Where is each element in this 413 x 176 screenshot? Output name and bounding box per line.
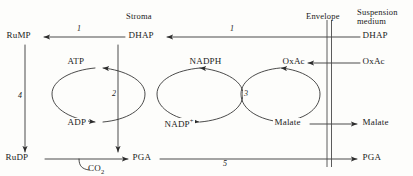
node-rudp: RuDP: [4, 153, 30, 162]
curve-nadph-to-nadp-left: [157, 68, 200, 122]
reaction-number-3: 3: [243, 90, 249, 98]
reaction-number-1-left: 1: [76, 25, 82, 33]
node-oxac-stroma: OxAc: [281, 57, 306, 66]
header-stroma: Stroma: [126, 12, 152, 21]
node-nadp-charge: +: [190, 117, 194, 124]
envelope-membrane: [327, 20, 332, 167]
node-dhap-stroma: DHAP: [127, 31, 155, 40]
node-malate-medium: Malate: [361, 118, 390, 127]
curve-nadp-to-nadph-right: [200, 68, 243, 122]
node-atp: ATP: [66, 57, 86, 66]
node-co2: CO2: [88, 164, 104, 176]
node-nadp: NADP+: [163, 118, 195, 129]
node-dhap-medium: DHAP: [361, 31, 389, 40]
curve-malate-to-oxac-right: [281, 68, 320, 122]
reaction-number-5: 5: [222, 160, 228, 168]
node-rump: RuMP: [5, 31, 32, 40]
node-nadph: NADPH: [188, 57, 223, 66]
reaction-number-1-right: 1: [229, 25, 235, 33]
curve-atp-to-adp-left: [52, 68, 95, 122]
header-suspension-medium-line2: medium: [357, 17, 386, 26]
node-pga-medium: PGA: [361, 153, 383, 162]
curve-adp-to-atp-right: [103, 68, 145, 122]
node-oxac-medium: OxAc: [361, 57, 386, 66]
reaction-number-4: 4: [17, 92, 23, 100]
node-pga-stroma: PGA: [131, 153, 153, 162]
node-co2-subscript: 2: [101, 168, 104, 175]
node-malate-stroma: Malate: [273, 118, 302, 127]
diagram-canvas: [0, 0, 413, 176]
reaction-number-2: 2: [111, 90, 117, 98]
header-envelope: Envelope: [306, 12, 340, 21]
node-nadp-text: NADP: [165, 119, 190, 129]
node-adp: ADP: [66, 118, 88, 127]
node-co2-text: CO: [88, 163, 101, 173]
pathway-diagram: Stroma Envelope Suspension medium RuMP D…: [0, 0, 413, 176]
